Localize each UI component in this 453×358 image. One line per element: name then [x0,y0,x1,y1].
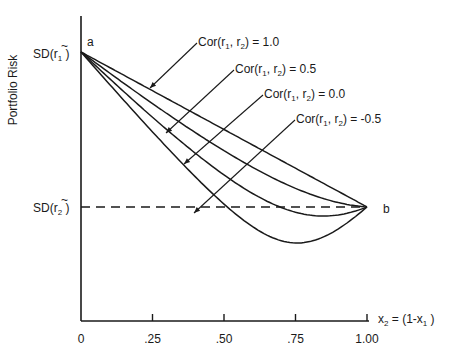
x-tick-label: 0 [78,332,85,346]
legend-label-corr-1: Cor(r1, r2) = 0.5 [235,62,317,78]
point-a-label: a [87,35,94,49]
arrow-line [166,70,234,133]
legend-label-corr-2: Cor(r1, r2) = 0.0 [264,87,346,103]
correlation-curves [81,52,367,243]
curve-corr-3 [81,52,367,243]
y-axis-title: Portfolio Risk [6,54,20,126]
tilde: ~ [61,193,68,207]
curve-corr-2 [81,52,367,216]
x-tick-label: .75 [287,332,304,346]
portfolio-risk-chart: 0.25.50.751.00Cor(r1, r2) = 1.0Cor(r1, r… [0,0,453,358]
tilde: ~ [61,39,68,53]
x-axis-title: x2 = (1-x1 ) [378,312,435,328]
x-tick-label: 1.00 [355,332,379,346]
chart-labels: 0.25.50.751.00Cor(r1, r2) = 1.0Cor(r1, r… [6,35,435,346]
legend-label-corr-3: Cor(r1, r2) = -0.5 [296,112,382,128]
legend-label-corr-0: Cor(r1, r2) = 1.0 [198,35,280,51]
axes [81,16,369,321]
point-b-label: b [383,202,390,216]
arrow-line [150,43,197,88]
x-tick-label: .25 [144,332,161,346]
arrow-line [194,120,295,213]
x-tick-label: .50 [216,332,233,346]
